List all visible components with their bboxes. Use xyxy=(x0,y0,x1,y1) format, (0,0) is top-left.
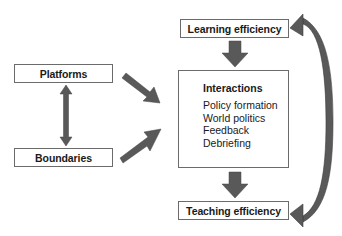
arrow-platforms-to-interactions xyxy=(122,73,160,103)
arrows-layer xyxy=(0,0,342,236)
learning-efficiency-label: Learning efficiency xyxy=(188,23,282,35)
interactions-item-world-politics: World politics xyxy=(203,112,265,125)
arrow-down-interactions-to-teaching xyxy=(222,172,248,198)
learning-efficiency-box: Learning efficiency xyxy=(180,19,289,38)
interactions-box: Interactions Policy formation World poli… xyxy=(178,70,289,168)
teaching-efficiency-label: Teaching efficiency xyxy=(186,205,281,217)
interactions-item-policy-formation: Policy formation xyxy=(203,99,278,112)
interactions-item-feedback: Feedback xyxy=(203,124,249,137)
arrow-curved-teaching-learning xyxy=(290,14,333,227)
arrow-down-learning-to-interactions xyxy=(222,41,248,67)
arrow-boundaries-to-interactions xyxy=(120,129,161,163)
arrow-platforms-boundaries-double xyxy=(60,85,72,146)
platforms-box: Platforms xyxy=(14,64,113,83)
teaching-efficiency-box: Teaching efficiency xyxy=(178,201,289,220)
interactions-title: Interactions xyxy=(203,82,263,94)
boundaries-box: Boundaries xyxy=(14,148,113,167)
interactions-item-debriefing: Debriefing xyxy=(203,137,251,150)
boundaries-label: Boundaries xyxy=(35,152,92,164)
platforms-label: Platforms xyxy=(40,68,88,80)
